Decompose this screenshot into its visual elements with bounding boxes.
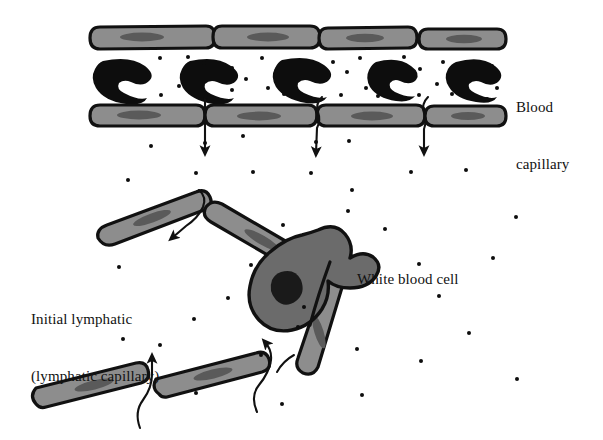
label-white-blood-cell: White blood cell bbox=[357, 232, 459, 327]
interstitial-fluid-particle bbox=[259, 353, 263, 357]
interstitial-fluid-particle bbox=[158, 56, 162, 60]
interstitial-fluid-particle bbox=[244, 77, 248, 81]
interstitial-fluid-particle bbox=[418, 67, 422, 71]
interstitial-fluid-particle bbox=[417, 93, 421, 97]
interstitial-fluid-particle bbox=[194, 171, 198, 175]
interstitial-fluid-particle bbox=[350, 188, 354, 192]
interstitial-fluid-particle bbox=[266, 86, 270, 90]
label-blood-capillary: Blood capillary bbox=[516, 60, 569, 212]
interstitial-fluid-particle bbox=[450, 92, 454, 96]
capillary-bottom-wall bbox=[90, 105, 506, 126]
endothelial-cell bbox=[419, 29, 506, 49]
endothelial-cell bbox=[205, 105, 317, 126]
figure-canvas: Blood capillary White blood cell Initial… bbox=[0, 0, 603, 440]
interstitial-fluid-particle bbox=[203, 141, 207, 145]
interstitial-fluid-particle bbox=[230, 88, 234, 92]
interstitial-fluid-particle bbox=[159, 93, 163, 97]
label-initial-lymphatic-line-2: (lymphatic capillary) bbox=[31, 367, 159, 386]
interstitial-fluid-particle bbox=[251, 170, 255, 174]
interstitial-fluid-particle bbox=[376, 94, 380, 98]
lymphatic-endothelial-cell bbox=[98, 191, 211, 245]
interstitial-fluid-particle bbox=[260, 56, 264, 60]
interstitial-fluid-particle bbox=[314, 140, 318, 144]
interstitial-fluid-particle bbox=[177, 84, 181, 88]
interstitial-fluid-particle bbox=[491, 256, 495, 260]
endothelial-cell bbox=[213, 26, 320, 48]
interstitial-fluid-particle bbox=[226, 296, 230, 300]
interstitial-fluid-particle bbox=[204, 95, 208, 99]
interstitial-fluid-particle bbox=[149, 144, 153, 148]
interstitial-fluid-particle bbox=[309, 171, 313, 175]
interstitial-fluid-particle bbox=[464, 168, 468, 172]
label-white-blood-cell-line-1: White blood cell bbox=[357, 270, 459, 289]
interstitial-fluid-particle bbox=[515, 377, 519, 381]
interstitial-fluid-particle bbox=[514, 215, 518, 219]
interstitial-fluid-particle bbox=[230, 66, 234, 70]
endothelial-cell bbox=[90, 105, 205, 126]
interstitial-fluid-particle bbox=[296, 325, 300, 329]
inflow-arrow bbox=[277, 355, 294, 372]
interstitial-fluid-particle bbox=[249, 263, 253, 267]
interstitial-fluid-particle bbox=[282, 92, 286, 96]
interstitial-fluid-particle bbox=[192, 317, 196, 321]
interstitial-fluid-particle bbox=[241, 134, 245, 138]
label-initial-lymphatic-line-1: Initial lymphatic bbox=[31, 310, 159, 329]
label-blood-capillary-line-2: capillary bbox=[516, 155, 569, 174]
interstitial-fluid-particle bbox=[346, 209, 350, 213]
capillary-top-wall bbox=[90, 26, 506, 49]
red-blood-cells bbox=[93, 58, 502, 105]
interstitial-fluid-particle bbox=[302, 305, 306, 309]
interstitial-fluid-particle bbox=[345, 70, 349, 74]
endothelial-cell bbox=[317, 105, 425, 126]
interstitial-fluid-particle bbox=[490, 64, 494, 68]
interstitial-fluid-particle bbox=[186, 55, 190, 59]
interstitial-fluid-particle bbox=[355, 347, 359, 351]
interstitial-fluid-particle bbox=[347, 139, 351, 143]
endothelial-cell bbox=[90, 26, 215, 49]
endothelial-cell bbox=[425, 106, 506, 126]
interstitial-fluid-particle bbox=[383, 227, 387, 231]
interstitial-fluid-particle bbox=[280, 402, 284, 406]
interstitial-fluid-particle bbox=[441, 60, 445, 64]
interstitial-fluid-particle bbox=[331, 60, 335, 64]
interstitial-fluid-particle bbox=[409, 170, 413, 174]
interstitial-fluid-particle bbox=[339, 93, 343, 97]
interstitial-fluid-particle bbox=[126, 178, 130, 182]
lymphatic-endothelial-cell bbox=[154, 352, 270, 397]
interstitial-fluid-particle bbox=[364, 86, 368, 90]
interstitial-fluid-particle bbox=[402, 55, 406, 59]
interstitial-fluid-particle bbox=[495, 86, 499, 90]
interstitial-fluid-particle bbox=[419, 359, 423, 363]
interstitial-fluid-particle bbox=[467, 331, 471, 335]
interstitial-fluid-particle bbox=[360, 393, 364, 397]
label-initial-lymphatic: Initial lymphatic (lymphatic capillary) bbox=[31, 272, 159, 424]
interstitial-fluid-particle bbox=[281, 223, 285, 227]
endothelial-cell bbox=[319, 27, 417, 49]
red-blood-cell bbox=[93, 59, 152, 105]
interstitial-fluid-particle bbox=[435, 82, 439, 86]
interstitial-fluid-particle bbox=[117, 265, 121, 269]
red-blood-cell bbox=[367, 60, 417, 102]
interstitial-fluid-particle bbox=[485, 97, 489, 101]
interstitial-fluid-particle bbox=[202, 61, 206, 65]
interstitial-fluid-particle bbox=[274, 69, 278, 73]
red-blood-cell bbox=[180, 59, 238, 105]
label-blood-capillary-line-1: Blood bbox=[516, 98, 569, 117]
interstitial-fluid-particle bbox=[358, 56, 362, 60]
interstitial-fluid-particle bbox=[194, 391, 198, 395]
